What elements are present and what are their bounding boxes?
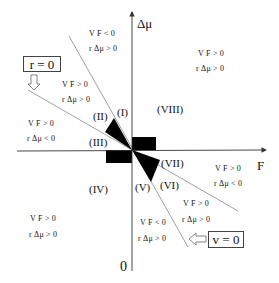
x-axis-label: F xyxy=(257,159,264,172)
condition-rdmu: r Δμ > 0 xyxy=(138,235,166,243)
condition-rdmu: r Δμ > 0 xyxy=(196,65,224,73)
condition-vf: V F < 0 xyxy=(89,30,115,38)
condition-vf: V F > 0 xyxy=(28,120,54,128)
condition-vf: V F > 0 xyxy=(198,50,224,58)
condition-vf: V F < 0 xyxy=(140,219,166,227)
condition-vf: V F > 0 xyxy=(62,81,88,89)
condition-rdmu: r Δμ < 0 xyxy=(214,180,242,188)
condition-vf: V F > 0 xyxy=(215,165,241,173)
condition-rdmu: r Δμ > 0 xyxy=(62,96,90,104)
wedge-lower-right xyxy=(132,150,160,182)
v-zero-label: v = 0 xyxy=(208,231,244,248)
region-label-III: (III) xyxy=(89,137,107,148)
condition-vf: V F > 0 xyxy=(183,200,209,208)
down-arrow-icon xyxy=(28,75,40,90)
y-axis-label: Δμ xyxy=(137,17,152,30)
origin-label: 0 xyxy=(120,260,127,274)
rect-lower-left xyxy=(106,150,132,163)
condition-rdmu: r Δμ < 0 xyxy=(27,135,55,143)
region-label-V: (V) xyxy=(135,182,150,193)
region-label-VIII: (VIII) xyxy=(157,104,183,115)
wedge-upper-left xyxy=(105,118,132,150)
region-label-VI: (VI) xyxy=(160,180,179,191)
rect-upper-right xyxy=(132,137,156,150)
left-arrow-icon xyxy=(189,233,206,245)
condition-rdmu: r Δμ > 0 xyxy=(182,216,210,224)
condition-rdmu: r Δμ > 0 xyxy=(29,231,57,239)
condition-vf: V F > 0 xyxy=(30,215,56,223)
region-label-I: (I) xyxy=(117,107,128,118)
region-label-IV: (IV) xyxy=(89,184,108,195)
x-axis xyxy=(17,150,266,151)
condition-rdmu: r Δμ > 0 xyxy=(89,45,117,53)
region-label-VII: (VII) xyxy=(161,158,184,169)
v-zero-line xyxy=(69,36,188,247)
region-label-II: (II) xyxy=(93,111,108,122)
r-zero-label: r = 0 xyxy=(23,56,61,72)
phase-diagram: Δμ F 0 r = 0 v = 0 (I) (II) (III) (IV) (… xyxy=(0,0,279,283)
